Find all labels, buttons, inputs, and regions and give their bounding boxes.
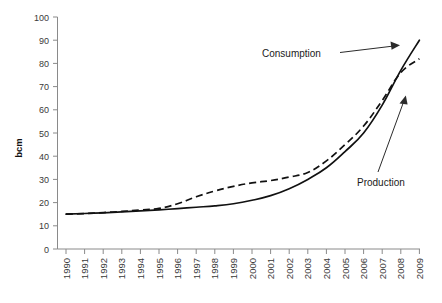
x-tick-label: 2002	[284, 258, 295, 279]
annotation-production-label: Production	[357, 177, 405, 188]
x-tick-label: 1993	[116, 258, 127, 279]
x-tick-label: 1996	[172, 258, 183, 279]
line-chart: bcm 100 90 80 70 60 50 40 30 20 10	[0, 0, 442, 303]
x-tick-label: 2001	[265, 258, 276, 279]
annotation-consumption-label: Consumption	[262, 48, 321, 59]
x-tick-label: 1998	[209, 258, 220, 279]
y-axis-title: bcm	[13, 138, 24, 158]
x-tick-label: 1999	[228, 258, 239, 279]
x-tick-label: 2005	[340, 258, 351, 279]
x-tick-label: 2009	[414, 258, 425, 279]
x-tick-label: 1991	[79, 258, 90, 279]
x-tick-label: 2000	[247, 258, 258, 279]
x-tick-label: 2003	[302, 258, 313, 279]
y-tick-label: 30	[39, 175, 49, 185]
x-tick-label: 1997	[191, 258, 202, 279]
x-tick-label: 1992	[98, 258, 109, 279]
x-tick-label: 2004	[321, 258, 332, 279]
y-tick-label: 40	[39, 152, 49, 162]
y-tick-label: 80	[39, 59, 49, 69]
y-tick-label: 10	[39, 221, 49, 231]
y-tick-label: 20	[39, 198, 49, 208]
x-tick-label: 1994	[135, 258, 146, 279]
y-tick-label: 50	[39, 129, 49, 139]
x-tick-label: 1995	[154, 258, 165, 279]
y-tick-label: 0	[44, 245, 49, 255]
y-tick-label: 90	[39, 36, 49, 46]
x-tick-label: 2007	[377, 258, 388, 279]
x-tick-label: 2006	[358, 258, 369, 279]
x-tick-label: 2008	[395, 258, 406, 279]
y-tick-label: 70	[39, 82, 49, 92]
y-tick-label: 100	[34, 13, 49, 23]
x-tick-label: 1990	[61, 258, 72, 279]
chart-background	[0, 0, 442, 303]
y-tick-label: 60	[39, 105, 49, 115]
chart-container: bcm 100 90 80 70 60 50 40 30 20 10	[0, 0, 442, 303]
